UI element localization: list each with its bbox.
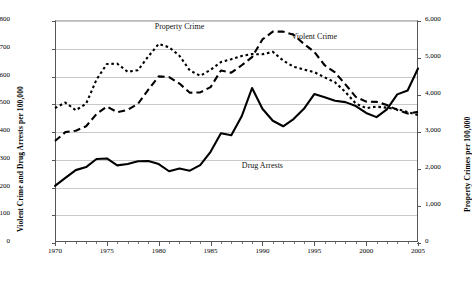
series-line-property-crime <box>55 44 418 115</box>
crime-trends-chart: Violent Crime and Drug Arrests per 100,0… <box>0 0 472 285</box>
series-line-drug-arrests <box>55 69 418 186</box>
series-lines <box>0 0 472 285</box>
